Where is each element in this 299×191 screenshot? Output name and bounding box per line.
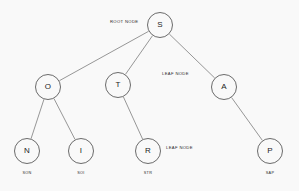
- tree-node-label: T: [115, 81, 120, 89]
- tree-edge-o-n: [31, 99, 44, 138]
- tree-node-label: I: [80, 147, 82, 155]
- word-soi: SOI: [61, 172, 101, 176]
- tree-edge-a-p: [232, 98, 263, 141]
- annotation-leaf-node-a: LEAF NODE: [162, 72, 189, 76]
- tree-node-a[interactable]: A: [211, 74, 237, 100]
- tree-node-o[interactable]: O: [35, 74, 61, 100]
- tree-node-label: A: [221, 83, 227, 91]
- tree-node-r[interactable]: R: [135, 138, 161, 164]
- tree-node-i[interactable]: I: [68, 138, 94, 164]
- tree-edge-s-t: [125, 36, 152, 75]
- tree-node-label: N: [24, 147, 30, 155]
- tree-node-n[interactable]: N: [14, 138, 40, 164]
- tree-node-label: S: [157, 21, 163, 29]
- tree-edge-t-r: [123, 97, 142, 139]
- tree-node-label: R: [145, 147, 151, 155]
- tree-node-label: P: [267, 147, 273, 155]
- tree-edge-s-o: [59, 31, 148, 80]
- word-str: STR: [128, 172, 168, 176]
- tree-node-t[interactable]: T: [105, 72, 131, 98]
- annotation-leaf-node-r: LEAF NODE: [166, 146, 193, 150]
- annotation-root-node: ROOT NODE: [110, 20, 138, 24]
- tree-node-p[interactable]: P: [257, 138, 283, 164]
- tree-edge-o-i: [54, 99, 75, 140]
- tree-node-label: O: [45, 83, 51, 91]
- tree-node-s[interactable]: S: [147, 12, 173, 38]
- tree-diagram-canvas: SOTANIRP ROOT NODELEAF NODELEAF NODE SON…: [0, 0, 299, 191]
- word-son: SON: [7, 172, 47, 176]
- word-sap: SAP: [250, 172, 290, 176]
